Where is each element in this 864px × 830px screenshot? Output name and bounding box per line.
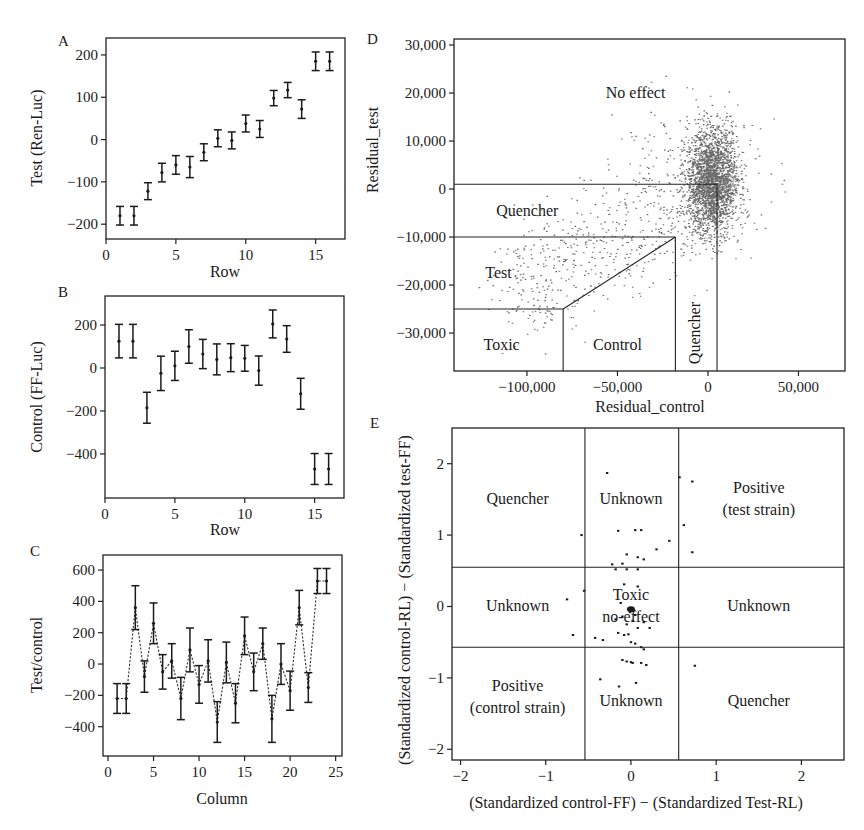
data-point bbox=[122, 684, 130, 714]
data-point bbox=[270, 90, 278, 105]
panel-e: E −2−1012−2−1012QuencherUnknownPositive(… bbox=[370, 415, 844, 812]
y-tick-label: 30,000 bbox=[405, 37, 446, 53]
plot-frame bbox=[105, 296, 344, 498]
x-tick-label: 10 bbox=[237, 506, 252, 522]
data-point bbox=[195, 666, 203, 704]
x-tick-label: 5 bbox=[172, 247, 180, 263]
region-label: Positive(test strain) bbox=[723, 479, 795, 519]
data-point bbox=[242, 115, 250, 132]
y-tick-label: 2 bbox=[437, 456, 445, 472]
data-point bbox=[295, 590, 303, 624]
x-tick-label: 0 bbox=[101, 506, 109, 522]
y-axis-title-e: (Standardized control-RL) − (Standardize… bbox=[396, 435, 414, 765]
y-tick-label: 10,000 bbox=[405, 133, 446, 149]
y-tick-label: −400 bbox=[66, 446, 97, 462]
x-tick-label: 5 bbox=[171, 506, 179, 522]
data-point bbox=[228, 132, 236, 149]
x-tick-label: 10 bbox=[238, 247, 253, 263]
panel-label-e: E bbox=[370, 415, 379, 431]
data-point bbox=[172, 156, 180, 175]
region-label: Unknown bbox=[727, 597, 790, 614]
y-tick-label: −1 bbox=[428, 670, 444, 686]
x-tick-label: 50,000 bbox=[778, 379, 819, 395]
data-point bbox=[159, 655, 167, 689]
y-tick-label: 400 bbox=[73, 593, 96, 609]
plot-area-d: −100,000−50,000050,000−30,000−20,000−10,… bbox=[396, 37, 845, 395]
y-tick-label: 0 bbox=[437, 598, 445, 614]
x-axis-title-b: Row bbox=[210, 521, 241, 538]
data-point bbox=[200, 144, 208, 161]
y-tick-label: −10,000 bbox=[396, 229, 446, 245]
panel-label-d: D bbox=[367, 31, 378, 47]
region-label: No effect bbox=[606, 84, 666, 101]
x-axis-title-a: Row bbox=[210, 263, 241, 280]
data-point bbox=[116, 206, 124, 225]
region-boundary bbox=[563, 237, 675, 309]
y-tick-label: −2 bbox=[428, 741, 444, 757]
data-point bbox=[157, 356, 165, 390]
panel-label-c: C bbox=[30, 543, 40, 559]
y-tick-label: −20,000 bbox=[396, 277, 446, 293]
plot-area-b: 051015−400−2000200 bbox=[66, 296, 344, 522]
x-tick-label: 25 bbox=[328, 764, 343, 780]
data-point bbox=[185, 330, 193, 364]
data-point bbox=[326, 52, 334, 71]
data-point bbox=[129, 324, 137, 358]
panel-a: A 051015−200−1000100200 Row Test (Ren-Lu… bbox=[28, 33, 345, 280]
x-tick-label: 10 bbox=[192, 764, 207, 780]
data-point bbox=[143, 392, 151, 423]
data-point bbox=[214, 130, 222, 147]
y-tick-label: −30,000 bbox=[396, 325, 446, 341]
y-tick-label: −200 bbox=[64, 687, 95, 703]
data-point bbox=[140, 661, 148, 692]
y-axis-title-c: Test/control bbox=[28, 616, 45, 693]
x-tick-label: 15 bbox=[237, 764, 252, 780]
data-point bbox=[213, 344, 221, 375]
region-label: Positive(control strain) bbox=[470, 677, 566, 717]
region-label: Toxic bbox=[484, 336, 520, 353]
x-axis-title-c: Column bbox=[196, 790, 248, 807]
data-point bbox=[241, 345, 249, 371]
x-tick-label: 0 bbox=[704, 379, 712, 395]
x-tick-label: 2 bbox=[798, 768, 806, 784]
panel-c: C 0510152025−400−2000200400600 Column Te… bbox=[28, 543, 343, 807]
x-tick-label: 0 bbox=[627, 768, 635, 784]
data-point bbox=[269, 310, 277, 338]
y-tick-label: 0 bbox=[91, 132, 99, 148]
data-point bbox=[222, 642, 230, 683]
data-point bbox=[113, 684, 121, 714]
y-axis-title-d: Residual_test bbox=[364, 106, 381, 193]
y-tick-label: −100 bbox=[67, 174, 98, 190]
data-point bbox=[115, 324, 123, 358]
panel-d: D −100,000−50,000050,000−30,000−20,000−1… bbox=[364, 31, 845, 415]
y-tick-label: −400 bbox=[64, 719, 95, 735]
data-point bbox=[130, 206, 138, 225]
data-point bbox=[312, 52, 320, 71]
data-point bbox=[286, 671, 294, 710]
panel-label-a: A bbox=[58, 33, 69, 49]
data-point bbox=[283, 326, 291, 353]
data-point bbox=[284, 82, 292, 97]
region-label: Quencher bbox=[728, 692, 791, 709]
x-tick-label: 0 bbox=[104, 764, 112, 780]
data-point bbox=[186, 156, 194, 177]
y-tick-label: 0 bbox=[439, 181, 447, 197]
y-tick-label: −200 bbox=[66, 403, 97, 419]
data-point bbox=[144, 183, 152, 200]
data-point bbox=[304, 673, 312, 703]
x-tick-label: 0 bbox=[102, 247, 110, 263]
x-tick-label: 15 bbox=[307, 506, 322, 522]
y-tick-label: 200 bbox=[76, 47, 99, 63]
panel-label-b: B bbox=[58, 284, 68, 300]
y-tick-label: 0 bbox=[88, 656, 96, 672]
x-tick-label: 5 bbox=[150, 764, 158, 780]
x-tick-label: −1 bbox=[538, 768, 554, 784]
region-label: Toxicno-effect bbox=[602, 586, 660, 625]
data-point bbox=[186, 628, 194, 672]
x-tick-label: −2 bbox=[453, 768, 469, 784]
data-point bbox=[297, 378, 305, 409]
data-point bbox=[168, 644, 176, 678]
figure: A 051015−200−1000100200 Row Test (Ren-Lu… bbox=[0, 0, 864, 830]
data-point bbox=[199, 339, 207, 368]
data-point bbox=[204, 640, 212, 682]
